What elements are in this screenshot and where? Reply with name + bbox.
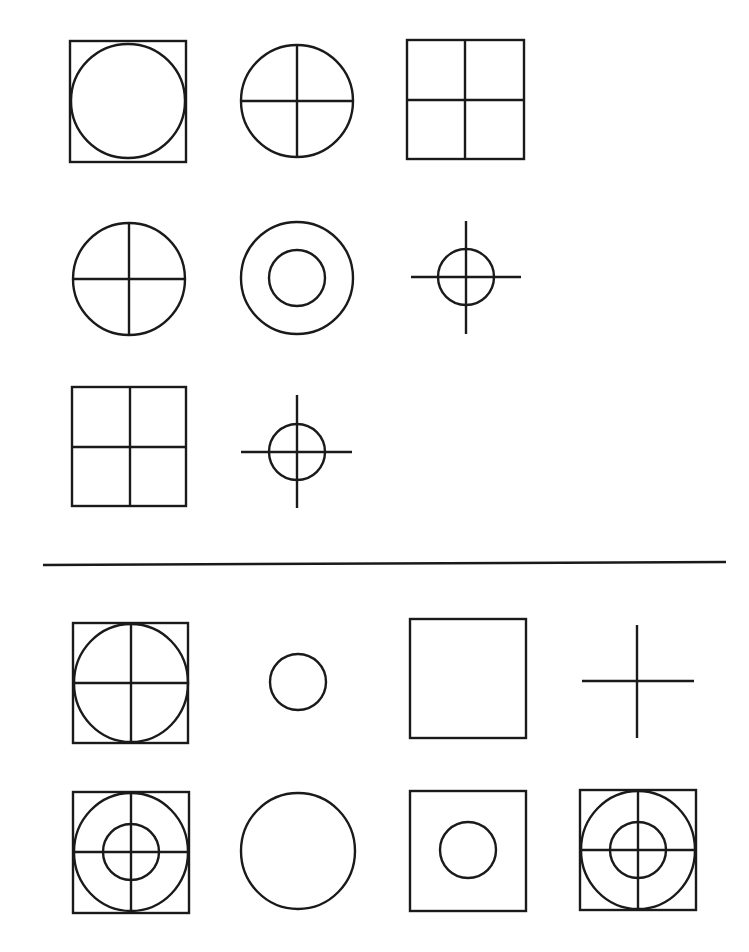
- option-o1-square-circle-cross[interactable]: [73, 623, 188, 743]
- option-o3-empty-square[interactable]: [410, 619, 526, 738]
- question-shape-q2-circle-with-cross: [241, 45, 353, 157]
- figure-puzzle-canvas: [0, 0, 749, 952]
- question-shape-q1-square-with-circle: [70, 41, 186, 162]
- question-matrix: [70, 40, 524, 508]
- answer-options: [73, 619, 696, 913]
- question-shape-q7-square-with-cross: [72, 387, 186, 506]
- question-shape-q6-crosshair: [411, 221, 521, 334]
- option-o2-small-circle[interactable]: [270, 654, 326, 710]
- question-shape-q4-circle-with-cross: [73, 223, 185, 335]
- question-shape-q8-crosshair: [241, 395, 352, 508]
- option-o5-square-double-circle-cross[interactable]: [73, 792, 189, 913]
- option-o4-plus-sign[interactable]: [582, 625, 694, 738]
- question-shape-q5-concentric-circles: [241, 222, 353, 334]
- section-divider: [43, 562, 726, 565]
- option-o7-square-with-small-circle[interactable]: [410, 791, 526, 911]
- option-o8-square-double-circle-cross[interactable]: [580, 790, 696, 910]
- question-shape-q3-square-with-cross: [407, 40, 524, 159]
- option-o6-large-circle[interactable]: [241, 793, 355, 909]
